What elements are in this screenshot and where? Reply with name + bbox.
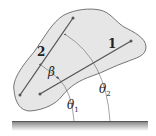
theta2-subscript: 2 (106, 90, 110, 98)
label-line-2: 2 (37, 45, 45, 59)
line-1-end-left (39, 93, 42, 96)
theta1-subscript: 1 (74, 106, 78, 114)
ground-shade (12, 122, 148, 131)
label-theta2: θ2 (99, 82, 111, 98)
rigid-body-shape (14, 9, 146, 111)
label-beta: β (47, 65, 55, 79)
line-2-end-top (72, 17, 75, 20)
rigid-body-diagram: 2 1 β θ1 θ2 (0, 0, 156, 136)
label-line-1: 1 (108, 37, 116, 51)
line-2-end-bottom (19, 94, 22, 97)
line-1-end-right (130, 40, 133, 43)
label-theta1: θ1 (67, 98, 79, 114)
